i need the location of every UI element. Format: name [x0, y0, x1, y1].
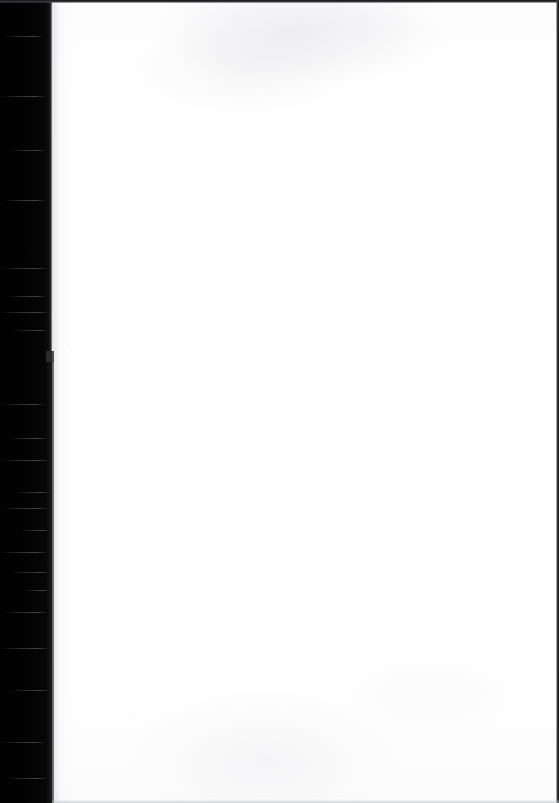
paper-area: [0, 0, 559, 803]
scan-edge-top: [0, 0, 559, 3]
scan-edge-bottom: [52, 799, 559, 803]
scanned-page: [0, 0, 559, 803]
gutter-edge-notch: [46, 351, 54, 362]
binding-gutter-shadow-lower: [0, 360, 54, 803]
